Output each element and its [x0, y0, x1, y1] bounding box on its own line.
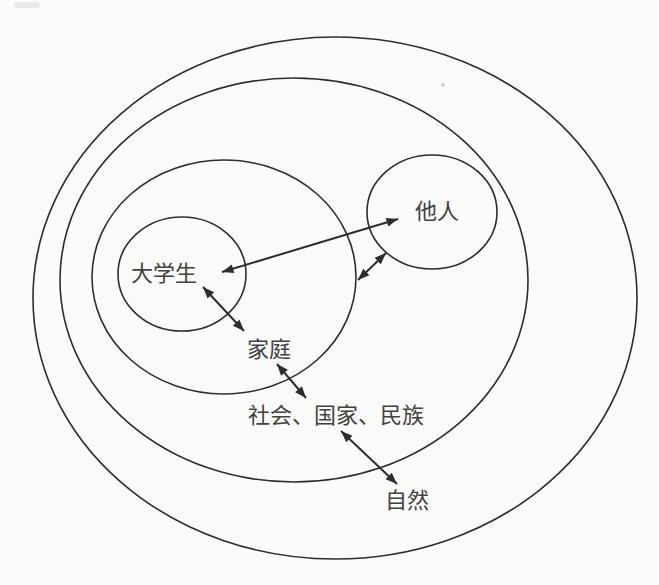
family-label: 家庭 [247, 337, 291, 362]
scan-smudge-artifact [14, 2, 40, 8]
arrow-student-family [203, 287, 244, 331]
others-label: 他人 [415, 199, 459, 224]
arrow-family-others [358, 253, 386, 280]
arrow-student-others [222, 219, 398, 272]
nature-label: 自然 [385, 488, 429, 513]
nested-ellipse-diagram: 大学生 他人 家庭 社会、国家、民族 自然 [0, 0, 659, 585]
society-label: 社会、国家、民族 [248, 403, 424, 428]
speck-artifact [441, 83, 445, 87]
arrow-family-society [277, 364, 306, 398]
student-label: 大学生 [131, 261, 197, 286]
diagram-canvas: 大学生 他人 家庭 社会、国家、民族 自然 [0, 0, 659, 585]
